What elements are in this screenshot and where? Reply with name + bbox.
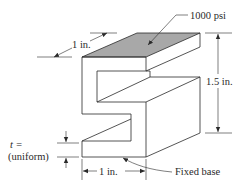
depth-dimension-label: 1 in.: [72, 39, 91, 50]
fixed-base-label: Fixed base: [175, 166, 221, 177]
thickness-symbol-label: t =: [10, 139, 23, 150]
thickness-note-label: (uniform): [8, 151, 49, 163]
upper-slot-back-wall-edge: [97, 77, 150, 102]
depth-dim-arrow: [54, 48, 72, 57]
edge: [146, 77, 200, 102]
s-block-diagram: 1 in. 1000 psi 1.5 in. t = (uniform) 1 i…: [0, 0, 247, 189]
pressure-label: 1000 psi: [190, 10, 226, 21]
depth-dim-arrow: [90, 33, 107, 41]
s-profile-front-face: [82, 57, 146, 157]
width-dimension-label: 1 in.: [99, 166, 118, 177]
lower-slot-back-wall-edge: [82, 119, 131, 141]
base-back-edge: [146, 133, 200, 157]
fixed-base-leader: [123, 158, 172, 172]
height-dimension-label: 1.5 in.: [206, 76, 233, 87]
